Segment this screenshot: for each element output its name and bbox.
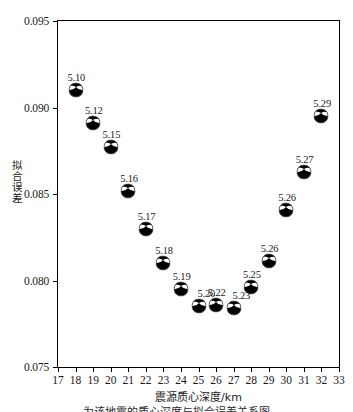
beachball-marker-icon: [121, 183, 136, 198]
data-point-label: 5.16: [120, 172, 138, 184]
x-axis-tick: [128, 367, 129, 372]
y-axis-tick-label: 0.080: [24, 274, 49, 289]
data-point: 5.22: [209, 297, 224, 312]
beachball-marker-icon: [226, 301, 241, 316]
data-point-label: 5.12: [85, 105, 103, 117]
x-axis-tick: [199, 367, 200, 372]
x-axis-tick: [321, 367, 322, 372]
x-axis-tick-label: 18: [70, 373, 82, 387]
y-axis-tick-label: 0.075: [24, 360, 49, 375]
x-axis-tick-label: 30: [281, 373, 293, 387]
x-axis-tick: [111, 367, 112, 372]
x-axis-tick-label: 25: [193, 373, 205, 387]
beachball-marker-icon: [138, 221, 153, 236]
figure-caption: 为该地震的质心深度与拟合误差关系图: [0, 403, 353, 412]
x-axis-tick-label: 20: [105, 373, 117, 387]
x-axis-tick: [269, 367, 270, 372]
data-point-label: 5.10: [67, 72, 85, 84]
data-point: 5.17: [138, 221, 153, 236]
x-axis-tick: [58, 367, 59, 372]
data-point-label: 5.26: [278, 191, 296, 203]
x-axis-tick-label: 29: [263, 373, 275, 387]
y-axis-tick: 0.080: [53, 281, 58, 282]
data-point-label: 5.25: [243, 269, 261, 281]
data-point-label: 5.19: [173, 271, 191, 283]
x-axis-tick: [234, 367, 235, 372]
x-axis-tick-label: 26: [210, 373, 222, 387]
x-axis-title: 震源质心深度/km: [57, 388, 340, 404]
data-point: 5.23: [226, 301, 241, 316]
x-axis-tick-label: 31: [298, 373, 310, 387]
x-axis-tick-label: 24: [175, 373, 187, 387]
beachball-marker-icon: [209, 297, 224, 312]
data-point: 5.15: [103, 140, 118, 155]
x-axis-tick: [76, 367, 77, 372]
data-point: 5.20: [191, 299, 206, 314]
beachball-marker-icon: [191, 299, 206, 314]
x-axis-tick-label: 33: [333, 373, 345, 387]
data-point: 5.10: [68, 83, 83, 98]
x-axis-tick: [181, 367, 182, 372]
data-point-label: 5.27: [296, 153, 314, 165]
beachball-marker-icon: [68, 83, 83, 98]
x-axis-tick-label: 21: [123, 373, 135, 387]
data-point: 5.16: [121, 183, 136, 198]
beachball-marker-icon: [296, 164, 311, 179]
y-axis-tick: 0.095: [53, 21, 58, 22]
beachball-marker-icon: [156, 256, 171, 271]
x-axis-tick-label: 17: [52, 373, 64, 387]
y-axis-tick-label: 0.090: [24, 101, 49, 116]
x-axis-tick-label: 22: [140, 373, 152, 387]
x-axis-tick: [216, 367, 217, 372]
beachball-marker-icon: [244, 280, 259, 295]
x-axis-tick-label: 32: [316, 373, 328, 387]
data-point: 5.25: [244, 280, 259, 295]
beachball-marker-icon: [279, 202, 294, 217]
beachball-marker-icon: [314, 109, 329, 124]
x-axis-tick-label: 23: [158, 373, 170, 387]
x-axis-tick: [286, 367, 287, 372]
data-point-label: 5.26: [261, 243, 279, 255]
data-point: 5.26: [261, 254, 276, 269]
x-axis-tick: [163, 367, 164, 372]
data-point: 5.19: [173, 282, 188, 297]
y-axis-title: 拟合误差: [8, 160, 22, 204]
data-point-label: 5.18: [155, 245, 173, 257]
x-axis-tick-label: 27: [228, 373, 240, 387]
x-axis-tick: [339, 367, 340, 372]
figure-container: 0.0750.0800.0850.0900.095171819202122232…: [0, 0, 353, 412]
plot-area: 0.0750.0800.0850.0900.095171819202122232…: [57, 20, 340, 368]
y-axis-tick: 0.085: [53, 194, 58, 195]
y-axis-tick-label: 0.085: [24, 187, 49, 202]
data-point: 5.29: [314, 109, 329, 124]
y-axis-tick-label: 0.095: [24, 14, 49, 29]
beachball-marker-icon: [103, 140, 118, 155]
x-axis-tick: [304, 367, 305, 372]
y-axis-tick: 0.090: [53, 108, 58, 109]
beachball-marker-icon: [173, 282, 188, 297]
data-point-label: 5.15: [103, 129, 121, 141]
x-axis-tick-label: 28: [245, 373, 257, 387]
data-point-label: 5.17: [138, 210, 156, 222]
data-point: 5.18: [156, 256, 171, 271]
x-axis-tick: [93, 367, 94, 372]
data-point: 5.12: [86, 116, 101, 131]
beachball-marker-icon: [261, 254, 276, 269]
data-point-label: 5.29: [313, 98, 331, 110]
data-point: 5.26: [279, 202, 294, 217]
beachball-marker-icon: [86, 116, 101, 131]
data-point-label: 5.22: [208, 286, 226, 298]
x-axis-tick: [146, 367, 147, 372]
data-point: 5.27: [296, 164, 311, 179]
x-axis-tick: [251, 367, 252, 372]
x-axis-tick-label: 19: [87, 373, 99, 387]
